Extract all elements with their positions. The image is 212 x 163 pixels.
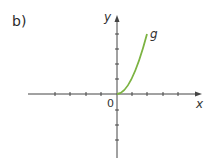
y-axis-arrow-icon	[115, 15, 120, 22]
x-axis-arrow-icon	[195, 92, 202, 97]
y-axis-label: y	[103, 10, 112, 24]
origin-label: 0	[107, 97, 114, 110]
curve-label-g: g	[150, 27, 158, 41]
curve-g	[117, 34, 147, 94]
chart: g y x 0	[0, 0, 212, 163]
x-axis-label: x	[195, 97, 204, 111]
